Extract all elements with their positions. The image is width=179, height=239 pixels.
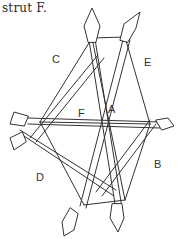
cap-left-lower	[10, 132, 26, 150]
cap-left	[10, 112, 28, 126]
label-d: D	[36, 171, 44, 183]
cap-bottom-right	[110, 204, 124, 232]
label-e: E	[144, 56, 151, 68]
label-a: A	[108, 103, 116, 115]
strut-c-diagonal	[80, 36, 130, 208]
cap-top-left	[84, 8, 100, 42]
cap-bottom-left-detached	[62, 208, 78, 236]
label-f: F	[78, 107, 85, 119]
cap-top-right	[120, 12, 140, 42]
strut-diagram: C E F A B D	[0, 0, 179, 239]
strut-d-diagonal	[20, 130, 116, 196]
label-c: C	[52, 53, 60, 65]
label-b: B	[154, 158, 161, 170]
